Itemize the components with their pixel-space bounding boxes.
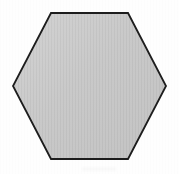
hexagon-svg (0, 0, 179, 174)
figure-canvas (0, 0, 179, 174)
hexagon-texture-overlay (13, 13, 166, 159)
